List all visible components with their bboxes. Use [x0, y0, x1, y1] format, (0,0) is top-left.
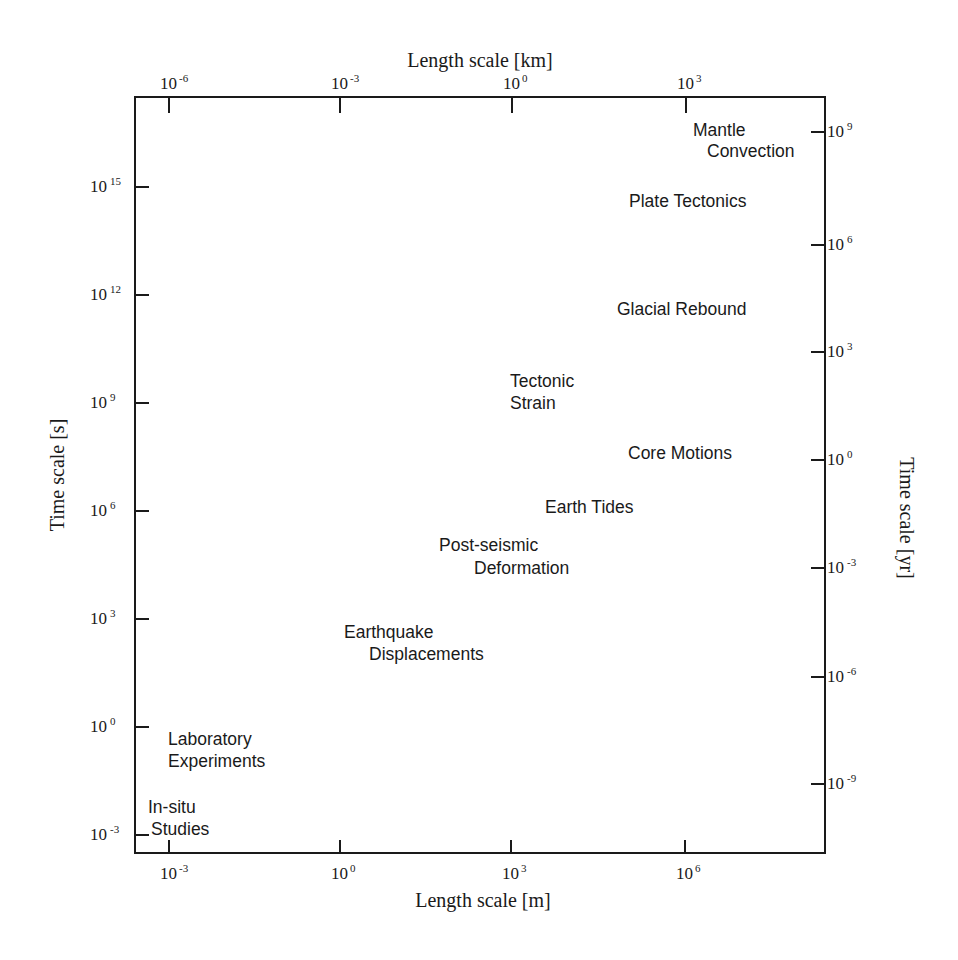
top-tick-label: 10-3: [331, 72, 360, 93]
top-tick-label: 100: [503, 72, 528, 93]
geodynamics-scale-chart: Length scale [km] 10-6 10-3 100 103 10-3…: [0, 0, 958, 960]
left-tick-label: 100: [90, 715, 116, 736]
label-earthquake-displacements: Earthquake Displacements: [344, 622, 484, 664]
left-axis-title: Time scale [s]: [46, 419, 68, 532]
left-tick-label: 106: [90, 499, 116, 520]
bottom-axis-tick-labels: 10-3 100 103 106: [160, 862, 701, 883]
label-in-situ-studies: In-situ Studies: [148, 797, 210, 839]
label-mantle-convection: Mantle Convection: [693, 120, 795, 161]
label-earth-tides: Earth Tides: [545, 497, 634, 517]
right-tick-label: 109: [827, 120, 853, 141]
bottom-axis-ticks: [169, 840, 685, 853]
bottom-tick-label: 100: [331, 862, 356, 883]
label-glacial-rebound: Glacial Rebound: [617, 299, 746, 319]
label-plate-tectonics: Plate Tectonics: [629, 191, 747, 211]
left-axis-tick-labels: 1015 1012 109 106 103 100 10-3: [90, 175, 122, 844]
right-tick-label: 10-9: [827, 772, 857, 793]
bottom-tick-label: 10-3: [160, 862, 189, 883]
top-axis-tick-labels: 10-6 10-3 100 103: [160, 72, 702, 93]
right-axis-ticks: [811, 132, 825, 784]
left-tick-label: 103: [90, 607, 116, 628]
right-tick-label: 106: [827, 233, 853, 254]
left-tick-label: 109: [90, 391, 116, 412]
right-axis-title: Time scale [yr]: [895, 457, 918, 578]
bottom-axis-title: Length scale [m]: [415, 889, 551, 912]
top-axis-ticks: [169, 97, 686, 113]
right-tick-label: 10-6: [827, 665, 857, 686]
left-tick-label: 10-3: [90, 823, 120, 844]
bottom-tick-label: 106: [676, 862, 701, 883]
label-core-motions: Core Motions: [628, 443, 732, 463]
right-tick-label: 10-3: [827, 556, 857, 577]
right-axis-tick-labels: 109 106 103 100 10-3 10-6 10-9: [827, 120, 857, 793]
left-axis-ticks: [135, 187, 149, 835]
bottom-tick-label: 103: [502, 862, 527, 883]
label-post-seismic-deformation: Post-seismic Deformation: [439, 535, 569, 578]
top-tick-label: 10-6: [160, 72, 189, 93]
top-tick-label: 103: [677, 72, 702, 93]
label-tectonic-strain: Tectonic Strain: [510, 371, 579, 413]
left-tick-label: 1015: [90, 175, 122, 196]
top-axis-title: Length scale [km]: [407, 49, 553, 72]
region-labels: Mantle Convection Plate Tectonics Glacia…: [148, 120, 795, 839]
right-tick-label: 100: [827, 448, 853, 469]
left-tick-label: 1012: [90, 283, 121, 304]
label-laboratory-experiments: Laboratory Experiments: [168, 729, 266, 771]
right-tick-label: 103: [827, 340, 853, 361]
